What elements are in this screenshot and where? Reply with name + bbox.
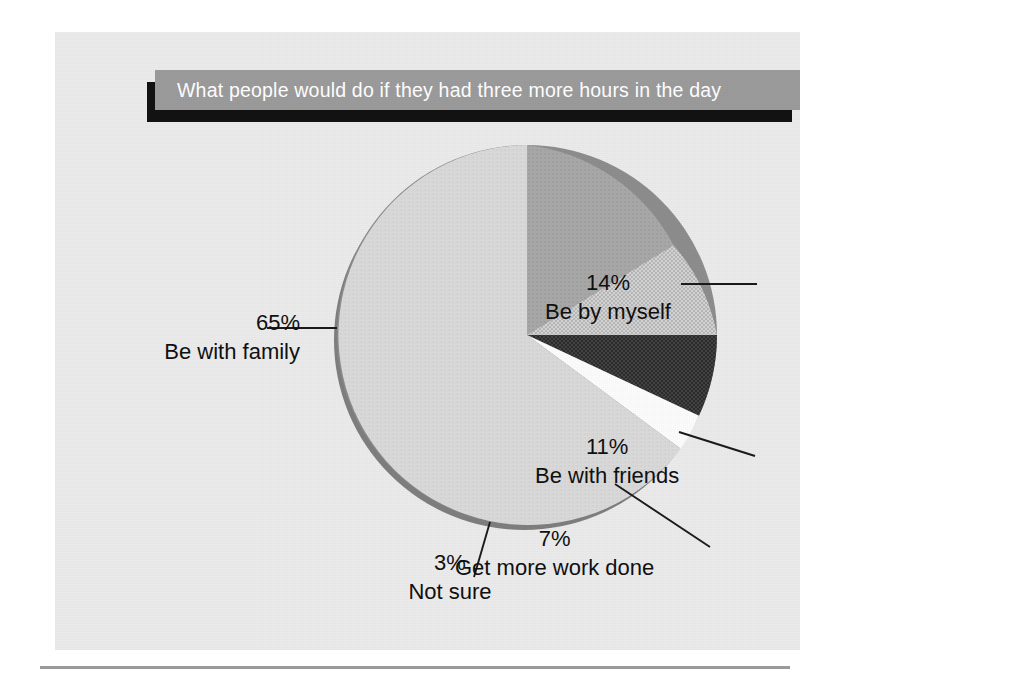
figure-panel: What people would do if they had three m… (55, 32, 800, 650)
pie-label-be-by-myself-text: Be by myself (545, 297, 671, 326)
pie-label-be-with-friends: 11% Be with friends (535, 432, 679, 490)
pie-label-be-with-family: 65% Be with family (95, 308, 300, 366)
pie-label-be-by-myself: 14% Be by myself (545, 268, 671, 326)
pie-label-be-with-family-percent: 65% (95, 308, 300, 337)
pie-label-be-with-friends-text: Be with friends (535, 461, 679, 490)
chart-title-block: What people would do if they had three m… (155, 70, 800, 110)
leader-line-be-with-friends (679, 432, 755, 456)
pie-label-not-sure-text: Not sure (375, 577, 525, 606)
pie-label-not-sure: 3% Not sure (375, 548, 525, 606)
chart-title-bar: What people would do if they had three m… (155, 70, 800, 110)
chart-title-text: What people would do if they had three m… (155, 79, 721, 102)
pie-label-be-by-myself-percent: 14% (545, 268, 671, 297)
bottom-divider-rule (40, 666, 790, 669)
pie-label-be-with-family-text: Be with family (95, 337, 300, 366)
pie-label-be-with-friends-percent: 11% (535, 432, 679, 461)
pie-label-not-sure-percent: 3% (375, 548, 525, 577)
